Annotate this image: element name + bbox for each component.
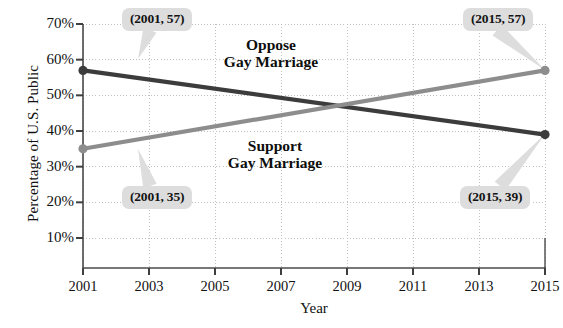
y-tick-label: 40% — [18, 123, 74, 138]
x-axis-title: Year — [83, 300, 545, 317]
x-tick-label: 2011 — [384, 279, 442, 294]
series-label-line: Oppose — [196, 36, 346, 53]
callout-201557: (2015, 57) — [463, 8, 533, 31]
x-tick-label: 2003 — [120, 279, 178, 294]
y-tick-label: 60% — [18, 52, 74, 67]
x-tick-marks — [83, 268, 545, 275]
x-tick-label: 2007 — [252, 279, 310, 294]
series-label-line: Gay Marriage — [200, 154, 350, 171]
x-tick-label: 2015 — [516, 279, 563, 294]
y-tick-marks — [76, 24, 83, 238]
x-tick-label: 2005 — [186, 279, 244, 294]
series-label-oppose: OpposeGay Marriage — [196, 36, 346, 71]
callout-200157: (2001, 57) — [122, 8, 192, 31]
x-tick-label: 2001 — [54, 279, 112, 294]
y-tick-label: 50% — [18, 87, 74, 102]
x-tick-label: 2013 — [450, 279, 508, 294]
y-tick-label: 10% — [18, 230, 74, 245]
series-label-support: SupportGay Marriage — [200, 137, 350, 172]
callout-201539: (2015, 39) — [460, 186, 530, 209]
x-tick-label: 2009 — [318, 279, 376, 294]
callout-200135: (2001, 35) — [122, 186, 192, 209]
y-tick-label: 30% — [18, 159, 74, 174]
y-tick-label: 70% — [18, 16, 74, 31]
y-tick-label: 20% — [18, 194, 74, 209]
series-label-line: Support — [200, 137, 350, 154]
chart-figure: Percentage of U.S. Public Year 10%20%30%… — [0, 0, 563, 328]
series-label-line: Gay Marriage — [196, 53, 346, 70]
